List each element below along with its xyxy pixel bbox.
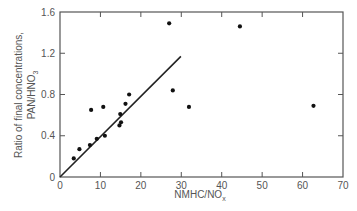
y-axis-ticks: 00.40.81.21.6 (41, 7, 343, 183)
data-point (171, 88, 175, 92)
x-tick-label: 50 (257, 180, 269, 191)
plot-frame (60, 12, 343, 177)
x-tick-label: 20 (135, 180, 147, 191)
data-point (77, 147, 81, 151)
plot-border (60, 12, 343, 177)
data-point (103, 134, 107, 138)
x-tick-label: 10 (95, 180, 107, 191)
data-point (167, 21, 171, 25)
x-tick-label: 60 (297, 180, 309, 191)
data-points (72, 21, 316, 160)
data-point (89, 108, 93, 112)
data-point (127, 92, 131, 96)
scatter-chart: 010203040506070 00.40.81.21.6 NMHC/NOx R… (0, 0, 357, 211)
data-point (72, 156, 76, 160)
y-tick-label: 1.2 (41, 48, 55, 59)
regression-line (60, 56, 181, 177)
y-tick-label: 0.4 (41, 130, 55, 141)
data-point (88, 143, 92, 147)
data-point (119, 120, 123, 124)
y-axis-label: Ratio of final concentrations, PAN/HNO3 (13, 32, 39, 158)
x-tick-label: 0 (57, 180, 63, 191)
y-axis-label-line2: PAN/HNO3 (26, 71, 39, 120)
x-tick-label: 70 (337, 180, 349, 191)
data-point (101, 105, 105, 109)
y-axis-label-line1: Ratio of final concentrations, (13, 32, 24, 158)
data-point (187, 105, 191, 109)
x-axis-label: NMHC/NOx (174, 189, 226, 202)
fit-line (60, 56, 181, 177)
x-axis-ticks: 010203040506070 (57, 12, 349, 191)
data-point (118, 112, 122, 116)
y-tick-label: 1.6 (41, 7, 55, 18)
data-point (95, 137, 99, 141)
data-point (311, 104, 315, 108)
y-tick-label: 0.8 (41, 89, 55, 100)
y-tick-label: 0 (49, 172, 55, 183)
data-point (123, 102, 127, 106)
data-point (238, 24, 242, 28)
